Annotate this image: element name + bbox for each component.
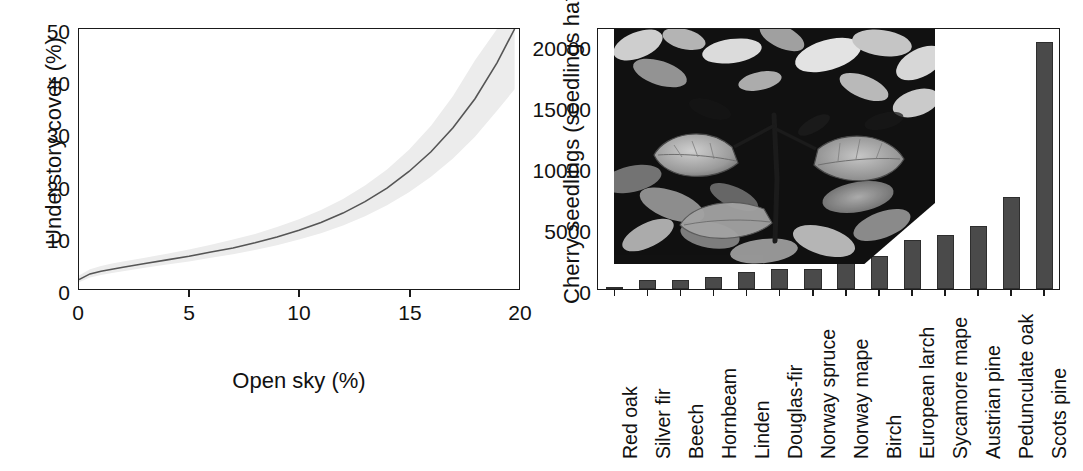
- panel-b-xtick-mark: [812, 290, 814, 296]
- panel-a-xtick-label-0: 0: [48, 302, 108, 323]
- panel-b-xtick-mark: [977, 290, 979, 296]
- panel-b-xtick-mark: [647, 290, 649, 296]
- panel-a-xtick-mark: [298, 290, 300, 297]
- category-label-linden: Linden: [753, 400, 773, 459]
- panel-b-xtick-mark: [1043, 290, 1045, 296]
- bar-birch: [871, 256, 888, 289]
- bar-sycamore-mape: [937, 235, 954, 289]
- bar-silver-fir: [639, 280, 656, 289]
- bar-beech: [672, 280, 689, 289]
- panel-a-plot-area: [78, 28, 520, 290]
- scientific-figure: Understory cover (%) 50 40 30 20 10 0 0 …: [0, 0, 1083, 471]
- panel-a-xtick-label-10: 10: [269, 302, 329, 323]
- category-label-european-larch: European larch: [918, 327, 938, 459]
- bar-austrian-pine: [970, 226, 987, 289]
- category-label-norway-mape: Norway mape: [852, 339, 872, 459]
- category-label-austrian-pine: Austrian pine: [984, 345, 1004, 459]
- panel-a-ytick-label-50: 50: [14, 21, 70, 42]
- panel-a-ytick-label-20: 20: [14, 178, 70, 199]
- panel-b-ytick-label-20000: 20000: [491, 38, 591, 59]
- category-label-scots-pine: Scots pine: [1050, 368, 1070, 459]
- category-label-red-oak: Red oak: [621, 386, 641, 459]
- panel-b-xtick-mark: [845, 290, 847, 296]
- panel-b-y-axis-label-exponent: -1: [557, 0, 574, 2]
- bar-hornbeam: [705, 277, 722, 289]
- panel-b-plot-area: [597, 28, 1060, 290]
- category-label-hornbeam: Hornbeam: [720, 368, 740, 459]
- bar-douglas-fir: [771, 269, 788, 289]
- panel-a-curve-svg: [79, 29, 519, 289]
- panel-cherry-seedlings-chart: Cherry seedlings (seedlings ha-1) 20000 …: [540, 0, 1083, 471]
- bar-linden: [738, 272, 755, 289]
- panel-b-xtick-mark: [680, 290, 682, 296]
- panel-b-xtick-mark: [614, 290, 616, 296]
- panel-a-ytick-label-0: 0: [14, 282, 70, 303]
- panel-b-xtick-mark: [944, 290, 946, 296]
- bar-european-larch: [904, 240, 921, 289]
- panel-a-xtick-mark: [188, 290, 190, 297]
- bar-red-oak: [606, 287, 623, 289]
- panel-a-x-axis-label: Open sky (%): [78, 368, 520, 394]
- panel-b-ytick-label-5000: 5000: [491, 221, 591, 242]
- bar-norway-spruce: [804, 269, 821, 289]
- panel-b-xtick-mark: [779, 290, 781, 296]
- panel-b-ytick-label-15000: 15000: [491, 99, 591, 120]
- panel-a-xtick-label-5: 5: [159, 302, 219, 323]
- bar-series: [598, 29, 1059, 289]
- panel-b-xtick-mark: [1010, 290, 1012, 296]
- confidence-band: [79, 29, 515, 282]
- panel-a-xtick-mark: [409, 290, 411, 297]
- panel-b-xtick-mark: [713, 290, 715, 296]
- bar-scots-pine: [1036, 42, 1053, 289]
- panel-a-ytick-label-10: 10: [14, 230, 70, 251]
- panel-a-xtick-label-15: 15: [380, 302, 440, 323]
- category-label-norway-spruce: Norway spruce: [819, 329, 839, 459]
- panel-b-ytick-label-10000: 10000: [491, 160, 591, 181]
- panel-b-xtick-mark: [878, 290, 880, 296]
- bar-norway-mape: [837, 258, 854, 289]
- category-label-sycamore-mape: Sycamore mape: [951, 317, 971, 459]
- category-label-beech: Beech: [687, 404, 707, 459]
- panel-understory-cover-chart: Understory cover (%) 50 40 30 20 10 0 0 …: [0, 0, 540, 471]
- category-label-birch: Birch: [885, 415, 905, 459]
- category-label-douglas-fir: Douglas-fir: [786, 365, 806, 459]
- category-label-silver-fir: Silver fir: [654, 389, 674, 459]
- panel-a-ytick-label-30: 30: [14, 125, 70, 146]
- panel-b-xtick-mark: [746, 290, 748, 296]
- bar-pedunculate-oak: [1003, 197, 1020, 289]
- panel-a-ytick-label-40: 40: [14, 73, 70, 94]
- category-label-pedunculate-oak: Pedunculate oak: [1017, 314, 1037, 459]
- panel-b-ytick-label-0: 0: [491, 282, 591, 303]
- panel-b-xtick-mark: [911, 290, 913, 296]
